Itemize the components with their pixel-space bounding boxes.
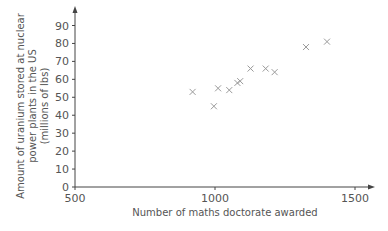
x-axis-title: Number of maths doctorate awarded — [132, 207, 317, 218]
y-axis-title-line: (millions of lbs) — [39, 68, 50, 145]
scatter-chart: Amount of uranium stored at nuclearpower… — [0, 0, 388, 231]
x-axis-arrow-icon — [368, 185, 375, 190]
y-tick-label: 30 — [55, 127, 69, 140]
y-tick-label: 10 — [55, 163, 69, 176]
y-axis-title-line: power plants in the US — [27, 49, 38, 163]
x-tick-label: 1000 — [201, 192, 229, 205]
y-axis-ticks: 0102030405060708090 — [55, 20, 75, 195]
data-points — [190, 39, 330, 110]
y-axis-arrow-icon — [73, 6, 78, 13]
x-tick-label: 500 — [65, 192, 86, 205]
x-marker-icon — [263, 66, 269, 72]
x-marker-icon — [215, 85, 221, 91]
y-tick-label: 20 — [55, 145, 69, 158]
x-marker-icon — [272, 69, 278, 75]
x-marker-icon — [248, 66, 254, 72]
y-axis-title: Amount of uranium stored at nuclearpower… — [15, 12, 50, 199]
y-tick-label: 60 — [55, 73, 69, 86]
y-tick-label: 50 — [55, 91, 69, 104]
y-tick-label: 70 — [55, 55, 69, 68]
x-marker-icon — [190, 89, 196, 95]
x-tick-label: 1500 — [341, 192, 369, 205]
x-marker-icon — [226, 87, 232, 93]
x-marker-icon — [211, 103, 217, 109]
y-axis-title-line: Amount of uranium stored at nuclear — [15, 12, 26, 199]
x-marker-icon — [237, 78, 243, 84]
x-axis-ticks: 50010001500 — [65, 187, 370, 205]
y-tick-label: 90 — [55, 20, 69, 33]
y-tick-label: 80 — [55, 37, 69, 50]
x-marker-icon — [324, 39, 330, 45]
x-marker-icon — [303, 44, 309, 50]
y-tick-label: 40 — [55, 109, 69, 122]
